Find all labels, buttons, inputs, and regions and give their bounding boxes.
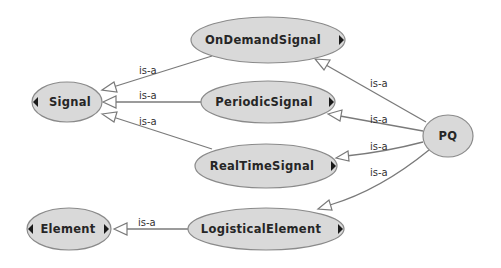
node-pq[interactable]: PQ [423,115,473,157]
node-label: PQ [439,129,458,143]
edge-realtimesignal-to-signal[interactable]: is-a [102,112,212,149]
edge-label: is-a [370,114,388,125]
edge-pq-to-periodicsignal[interactable]: is-a [328,110,423,131]
node-label: PeriodicSignal [215,95,312,109]
ontology-graph: is-a is-a is-a is-a is-a [0,0,501,268]
edge-ondemandsignal-to-signal[interactable]: is-a [102,56,212,92]
node-realtimesignal[interactable]: RealTimeSignal [195,144,337,188]
edge-pq-to-realtimesignal[interactable]: is-a [336,141,423,161]
node-logisticalelement[interactable]: LogisticalElement [188,208,344,250]
edge-label: is-a [139,65,157,76]
node-label: LogisticalElement [201,222,322,236]
edge-label: is-a [138,217,156,228]
edge-label: is-a [370,167,388,178]
node-signal[interactable]: Signal [32,82,102,122]
edge-periodicsignal-to-signal[interactable]: is-a [103,90,201,108]
edge-pq-to-logisticalelement[interactable]: is-a [318,150,429,210]
node-label: Signal [49,95,91,109]
node-ondemandsignal[interactable]: OnDemandSignal [191,17,345,63]
nodes: Signal Element OnDemandSignal PeriodicSi… [27,17,473,250]
edge-logisticalelement-to-element[interactable]: is-a [114,217,188,235]
edge-label: is-a [370,78,388,89]
edge-label: is-a [370,141,388,152]
node-element[interactable]: Element [27,208,111,250]
edge-label: is-a [139,116,157,127]
edge-label: is-a [139,90,157,101]
node-label: OnDemandSignal [205,33,321,47]
node-periodicsignal[interactable]: PeriodicSignal [201,81,335,123]
node-label: RealTimeSignal [210,159,314,173]
node-label: Element [40,222,95,236]
